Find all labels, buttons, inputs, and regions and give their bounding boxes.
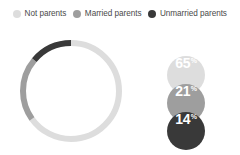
percentage-badge: 14 % [167,112,205,150]
legend-item-not-parents: Not parents [13,10,66,18]
legend-item-unmarried-parents: Unmarried parents [148,10,226,18]
donut-chart [16,32,126,150]
legend-item-label: Married parents [85,10,142,18]
donut-chart-svg [16,32,126,150]
percentage-badge-value: 21 [175,84,190,98]
legend-dot-icon [13,10,21,18]
percentage-badge-value: 14 [175,112,190,126]
legend-dot-icon [148,10,156,18]
legend-item-label: Not parents [25,10,67,18]
donut-segment-group [23,43,119,139]
percent-sign: % [191,85,197,92]
legend-item-married-parents: Married parents [73,10,141,18]
percentage-badge-value: 65 [175,56,190,70]
legend-dot-icon [73,10,81,18]
legend-item-label: Unmarried parents [160,10,227,18]
chart-legend: Not parents Married parents Unmarried pa… [0,0,240,26]
percent-sign: % [191,57,197,64]
percentage-badge-group: 65 % 21 % 14 % [167,56,213,152]
percent-sign: % [191,113,197,120]
